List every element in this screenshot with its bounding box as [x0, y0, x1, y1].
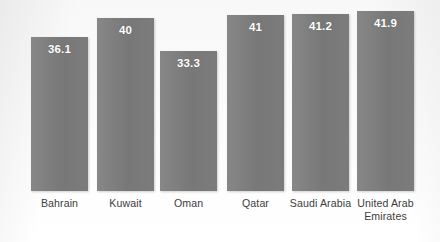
bar-group-3: 41 — [227, 15, 284, 191]
bar-chart-screenshot: 36.1 Bahrain 40 Kuwait 33.3 Oman 41 Qata… — [0, 0, 440, 242]
bar-1[interactable]: 40 — [97, 18, 154, 191]
bar-2[interactable]: 33.3 — [160, 51, 217, 191]
bar-value-label-0: 36.1 — [31, 44, 88, 56]
category-label-5: United Arab Emirates — [346, 197, 425, 223]
bar-group-5: 41.9 — [357, 11, 414, 191]
plot-area: 36.1 Bahrain 40 Kuwait 33.3 Oman 41 Qata… — [0, 0, 440, 242]
bar-group-4: 41.2 — [292, 14, 349, 191]
bar-value-label-4: 41.2 — [292, 21, 349, 33]
bar-value-label-3: 41 — [227, 22, 284, 34]
bar-group-1: 40 — [97, 18, 154, 191]
bar-value-label-2: 33.3 — [160, 58, 217, 70]
bar-5[interactable]: 41.9 — [357, 11, 414, 191]
bar-3[interactable]: 41 — [227, 15, 284, 191]
bar-value-label-5: 41.9 — [357, 18, 414, 30]
bar-group-2: 33.3 — [160, 51, 217, 191]
bar-group-0: 36.1 — [31, 37, 88, 191]
bar-value-label-1: 40 — [97, 25, 154, 37]
bar-4[interactable]: 41.2 — [292, 14, 349, 191]
bar-0[interactable]: 36.1 — [31, 37, 88, 191]
